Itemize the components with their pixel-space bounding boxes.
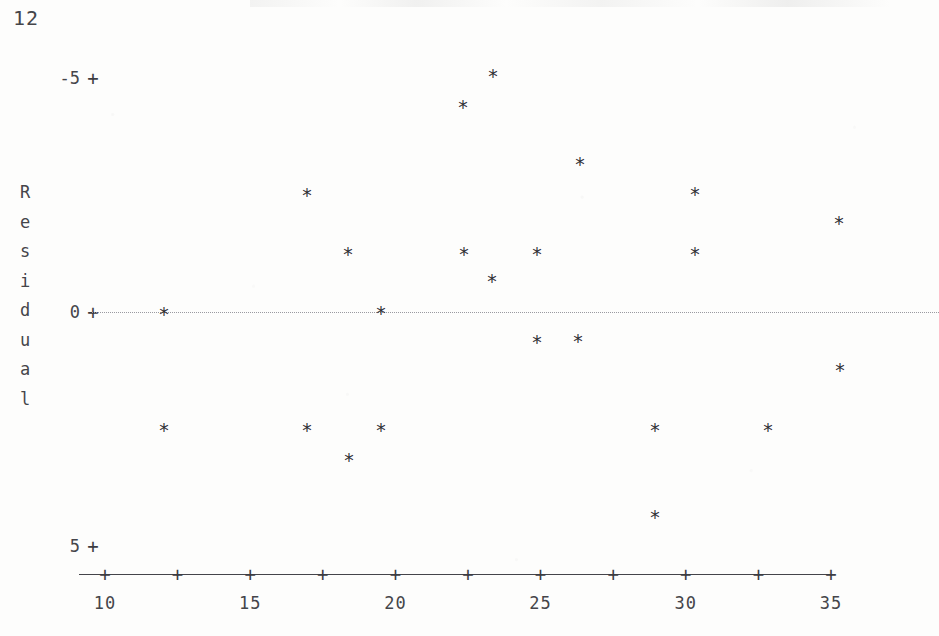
y-axis-tick-mark: + xyxy=(85,538,101,554)
x-axis-tick-mark: + xyxy=(97,566,113,582)
data-point-marker: * xyxy=(647,507,663,523)
x-axis-line xyxy=(79,574,835,575)
x-axis-tick-label: 20 xyxy=(365,593,425,613)
x-axis-tick-label: 35 xyxy=(801,593,861,613)
data-point-marker: * xyxy=(687,184,703,200)
y-axis-tick-label: 5 xyxy=(34,536,80,556)
data-point-marker: * xyxy=(156,304,172,320)
zero-reference-line xyxy=(92,312,939,313)
x-axis-tick-label: 25 xyxy=(511,593,571,613)
x-axis-tick-mark: + xyxy=(533,566,549,582)
x-axis-tick-mark: + xyxy=(605,566,621,582)
y-axis-tick-label: 0 xyxy=(34,302,80,322)
x-axis-tick-label: 30 xyxy=(656,593,716,613)
data-point-marker: * xyxy=(529,244,545,260)
plot-area: +5+0+-5 *********************** +10++15+… xyxy=(0,0,939,636)
data-point-marker: * xyxy=(484,271,500,287)
data-point-marker: * xyxy=(373,303,389,319)
data-point-marker: * xyxy=(156,420,172,436)
data-point-marker: * xyxy=(572,154,588,170)
data-point-marker: * xyxy=(299,185,315,201)
data-point-marker: * xyxy=(760,420,776,436)
y-axis-tick-mark: + xyxy=(85,70,101,86)
data-point-marker: * xyxy=(373,420,389,436)
x-axis-tick-mark: + xyxy=(823,566,839,582)
data-point-marker: * xyxy=(529,332,545,348)
data-point-marker: * xyxy=(341,450,357,466)
x-axis-tick-mark: + xyxy=(387,566,403,582)
x-axis-tick-label: 15 xyxy=(220,593,280,613)
x-axis-tick-mark: + xyxy=(460,566,476,582)
data-point-marker: * xyxy=(647,420,663,436)
data-point-marker: * xyxy=(455,97,471,113)
x-axis-tick-mark: + xyxy=(750,566,766,582)
data-point-marker: * xyxy=(340,244,356,260)
data-point-marker: * xyxy=(687,244,703,260)
x-axis-tick-mark: + xyxy=(678,566,694,582)
data-point-marker: * xyxy=(299,420,315,436)
y-axis-tick-label: -5 xyxy=(34,68,80,88)
data-point-marker: * xyxy=(485,66,501,82)
x-axis-tick-mark: + xyxy=(315,566,331,582)
data-point-marker: * xyxy=(831,213,847,229)
x-axis-tick-mark: + xyxy=(242,566,258,582)
x-axis-tick-label: 10 xyxy=(75,593,135,613)
chart-page: 12 Residual +5+0+-5 ********************… xyxy=(0,0,939,636)
data-point-marker: * xyxy=(570,331,586,347)
data-point-marker: * xyxy=(832,360,848,376)
x-axis-tick-mark: + xyxy=(170,566,186,582)
data-point-marker: * xyxy=(456,244,472,260)
